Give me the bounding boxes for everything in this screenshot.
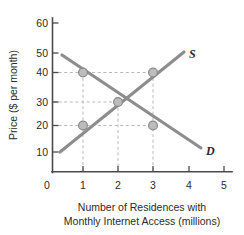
x-axis-title-line2: Monthly Internet Access (millions) [64, 215, 220, 227]
marker-q3-p40 [149, 68, 158, 77]
x-tick-label-5: 5 [221, 179, 227, 191]
y-tick-label-50: 50 [36, 47, 48, 59]
x-tick-labels: 0 1 2 3 4 5 [44, 179, 227, 191]
y-tick-label-10: 10 [36, 146, 48, 158]
x-tick-label-4: 4 [186, 179, 192, 191]
supply-demand-chart: 60 50 40 30 20 10 0 1 2 3 4 5 S D Price … [0, 0, 244, 235]
x-axis-title-line1: Number of Residences with [78, 201, 207, 213]
marker-equilibrium-q2-p30 [114, 98, 123, 107]
x-tick-label-1: 1 [80, 179, 86, 191]
marker-q1-p20 [79, 121, 88, 130]
y-tick-label-60: 60 [36, 17, 48, 29]
marker-q1-p40 [79, 68, 88, 77]
y-tick-label-40: 40 [36, 66, 48, 78]
y-tick-label-30: 30 [36, 96, 48, 108]
x-tick-label-3: 3 [150, 179, 156, 191]
y-tick-labels: 60 50 40 30 20 10 [36, 17, 48, 158]
demand-curve-label: D [205, 144, 215, 158]
marker-q3-p20 [149, 121, 158, 130]
axes [52, 18, 232, 173]
x-tick-label-0: 0 [44, 179, 50, 191]
supply-curve-label: S [189, 47, 196, 61]
y-axis-title: Price ($ per month) [7, 50, 19, 140]
chart-canvas: 60 50 40 30 20 10 0 1 2 3 4 5 S D Price … [0, 0, 244, 235]
x-tick-label-2: 2 [115, 179, 121, 191]
y-tick-label-20: 20 [36, 119, 48, 131]
